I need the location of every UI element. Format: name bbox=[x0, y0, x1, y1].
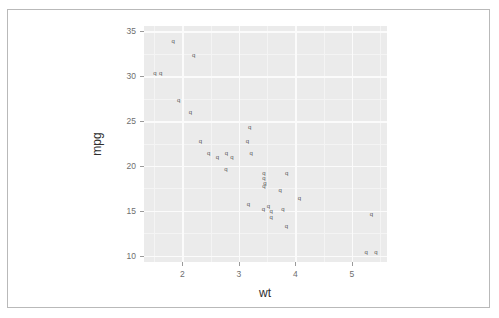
data-point: q bbox=[199, 138, 202, 144]
gridline-major-horizontal bbox=[144, 121, 387, 122]
y-axis-tick-label: 25 bbox=[127, 116, 136, 126]
data-point: q bbox=[364, 249, 367, 255]
data-point: q bbox=[269, 208, 272, 214]
data-point: q bbox=[247, 201, 250, 207]
x-axis-tick bbox=[352, 262, 353, 266]
y-axis-tick-label: 10 bbox=[127, 251, 136, 261]
data-point: q bbox=[262, 183, 265, 189]
data-point: q bbox=[216, 154, 219, 160]
x-axis-tick-label: 4 bbox=[293, 269, 298, 279]
data-point: q bbox=[370, 211, 373, 217]
gridline-major-horizontal bbox=[144, 31, 387, 32]
x-axis-tick-label: 5 bbox=[350, 269, 355, 279]
gridline-major-vertical bbox=[352, 26, 353, 262]
x-axis-tick-marks bbox=[144, 262, 387, 268]
x-axis-tick-label: 3 bbox=[237, 269, 242, 279]
data-point: q bbox=[281, 206, 284, 212]
data-point: q bbox=[177, 97, 180, 103]
data-point: q bbox=[285, 223, 288, 229]
data-point: q bbox=[224, 166, 227, 172]
y-axis-tick bbox=[140, 256, 144, 257]
x-axis-tick-label: 2 bbox=[180, 269, 185, 279]
data-point: q bbox=[192, 52, 195, 58]
data-point: q bbox=[279, 187, 282, 193]
data-point: q bbox=[249, 150, 252, 156]
gridline-minor-horizontal bbox=[144, 54, 387, 55]
y-axis-tick bbox=[140, 166, 144, 167]
gridline-minor-horizontal bbox=[144, 233, 387, 234]
data-point: q bbox=[171, 38, 174, 44]
y-axis-title: mpg bbox=[90, 132, 104, 155]
data-point: q bbox=[153, 70, 156, 76]
data-point: q bbox=[374, 249, 377, 255]
y-axis-tick-label: 35 bbox=[127, 26, 136, 36]
x-axis-tick bbox=[182, 262, 183, 266]
y-axis-tick-labels: 101520253035 bbox=[108, 26, 136, 262]
data-point: q bbox=[225, 150, 228, 156]
gridline-minor-horizontal bbox=[144, 188, 387, 189]
y-axis-tick-label: 15 bbox=[127, 206, 136, 216]
data-point: q bbox=[248, 124, 251, 130]
gridline-minor-horizontal bbox=[144, 99, 387, 100]
data-point: q bbox=[269, 214, 272, 220]
figure-container: mpg vs wt scatter plot faded bleed-throu… bbox=[0, 0, 499, 318]
y-axis-tick bbox=[140, 211, 144, 212]
data-point: q bbox=[262, 170, 265, 176]
data-point: q bbox=[159, 70, 162, 76]
y-axis-tick bbox=[140, 76, 144, 77]
data-point: q bbox=[230, 154, 233, 160]
y-axis-tick bbox=[140, 121, 144, 122]
data-point: q bbox=[207, 150, 210, 156]
x-axis-tick-labels: 2345 bbox=[144, 269, 387, 283]
x-axis-tick bbox=[239, 262, 240, 266]
gridline-major-vertical bbox=[182, 26, 183, 262]
gridline-major-horizontal bbox=[144, 211, 387, 212]
data-point: q bbox=[246, 138, 249, 144]
gridline-major-vertical bbox=[295, 26, 296, 262]
data-point: q bbox=[189, 109, 192, 115]
x-axis-title: wt bbox=[259, 286, 271, 300]
gridline-major-horizontal bbox=[144, 256, 387, 257]
y-axis-tick bbox=[140, 31, 144, 32]
data-point: q bbox=[262, 206, 265, 212]
y-axis-tick-label: 30 bbox=[127, 71, 136, 81]
x-axis-tick bbox=[295, 262, 296, 266]
gridline-major-vertical bbox=[239, 26, 240, 262]
plot-panel: qqqqqqqqqqqqqqqqqqqqqqqqqqqqqqqq bbox=[144, 26, 387, 262]
data-point: q bbox=[285, 170, 288, 176]
data-point: q bbox=[298, 195, 301, 201]
y-axis-tick-label: 20 bbox=[127, 161, 136, 171]
gridline-minor-horizontal bbox=[144, 144, 387, 145]
gridline-major-horizontal bbox=[144, 76, 387, 77]
gridline-major-horizontal bbox=[144, 166, 387, 167]
y-axis-tick-marks bbox=[138, 26, 144, 262]
